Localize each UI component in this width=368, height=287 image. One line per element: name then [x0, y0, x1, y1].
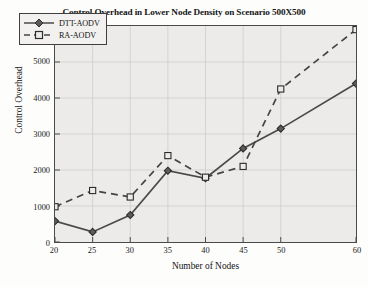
x-tick-20: 20: [39, 246, 69, 255]
y-tick-2000: 2000: [16, 166, 50, 175]
legend-label-dtt-aodv: DTT-AODV: [59, 19, 100, 28]
data-point-ra-aodv-25: [90, 187, 96, 193]
x-tick-50: 50: [266, 246, 296, 255]
y-tick-4000: 4000: [16, 93, 50, 102]
x-tick-60: 60: [342, 246, 368, 255]
x-axis-tick-labels: 2025303540455060: [54, 246, 357, 260]
x-tick-30: 30: [115, 246, 145, 255]
x-tick-35: 35: [153, 246, 183, 255]
y-tick-5000: 5000: [16, 57, 50, 66]
data-point-dtt-aodv-50: [277, 125, 284, 132]
x-tick-45: 45: [228, 246, 258, 255]
data-point-ra-aodv-35: [165, 153, 171, 159]
legend-item-dtt-aodv: DTT-AODV: [23, 17, 100, 29]
legend-marker-square-icon: [23, 29, 55, 41]
data-point-ra-aodv-40: [202, 174, 208, 180]
x-tick-40: 40: [191, 246, 221, 255]
data-point-dtt-aodv-25: [89, 228, 96, 235]
plot-area: [54, 25, 357, 243]
chart-legend: DTT-AODV RA-AODV: [19, 13, 107, 45]
data-series-layer: [55, 26, 356, 242]
legend-marker-diamond-icon: [23, 17, 55, 29]
data-point-ra-aodv-30: [127, 194, 133, 200]
x-axis-title: Number of Nodes: [54, 261, 357, 271]
data-point-ra-aodv-45: [240, 163, 246, 169]
data-point-ra-aodv-50: [278, 86, 284, 92]
data-point-dtt-aodv-20: [55, 218, 59, 225]
data-point-ra-aodv-20: [55, 204, 58, 210]
figure-container: Control Overhead in Lower Node Density o…: [0, 0, 368, 287]
y-axis-tick-labels: 0100020003000400050006000: [12, 25, 50, 243]
legend-label-ra-aodv: RA-AODV: [59, 31, 96, 40]
x-tick-25: 25: [77, 246, 107, 255]
y-tick-3000: 3000: [16, 130, 50, 139]
y-tick-1000: 1000: [16, 202, 50, 211]
legend-item-ra-aodv: RA-AODV: [23, 29, 100, 41]
series-line-dtt-aodv: [55, 84, 356, 232]
data-point-ra-aodv-60: [353, 27, 356, 33]
